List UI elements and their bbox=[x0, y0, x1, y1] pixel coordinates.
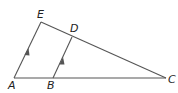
label-d: D bbox=[70, 22, 78, 35]
label-b: B bbox=[47, 79, 55, 92]
segment-bd bbox=[53, 37, 72, 78]
segments bbox=[14, 22, 166, 78]
parallel-arrow-icon-ae bbox=[25, 48, 30, 56]
segment-ec bbox=[41, 22, 166, 78]
triangle-diagram: A B C D E bbox=[0, 0, 178, 93]
label-c: C bbox=[168, 73, 176, 86]
point-labels: A B C D E bbox=[7, 8, 176, 92]
label-e: E bbox=[37, 8, 44, 21]
parallel-marks bbox=[25, 48, 65, 65]
label-a: A bbox=[7, 79, 16, 92]
